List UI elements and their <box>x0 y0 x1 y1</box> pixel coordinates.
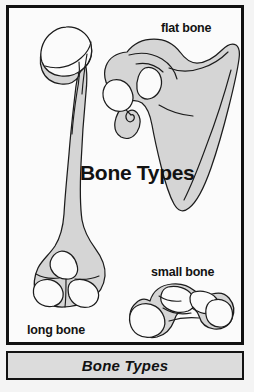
label-flat-bone: flat bone <box>161 22 211 35</box>
bone-types-figure: .bfill{fill:#d5d5d5;stroke:#1c1c1c;strok… <box>0 0 254 392</box>
illustration-panel: .bfill{fill:#d5d5d5;stroke:#1c1c1c;strok… <box>6 5 244 345</box>
flat-bone-scapula <box>103 39 239 211</box>
small-bone-carpal <box>130 284 234 338</box>
figure-title: Bone Types <box>80 162 194 183</box>
caption-text: Bone Types <box>82 357 168 374</box>
label-long-bone: long bone <box>27 324 85 337</box>
caption-bar: Bone Types <box>6 351 244 380</box>
label-small-bone: small bone <box>151 266 214 279</box>
